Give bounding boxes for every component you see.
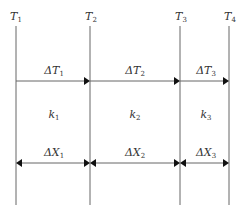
delta-t-label-2: ΔT2 (125, 65, 145, 78)
delta-x-label-1: ΔX1 (44, 147, 64, 160)
delta-t-label-1: ΔT1 (44, 65, 64, 78)
diagram-lines (0, 0, 249, 218)
arrowhead-icon (84, 77, 90, 85)
conductivity-label-1: k1 (48, 109, 59, 122)
arrowhead-icon (84, 159, 90, 167)
arrowhead-icon (174, 159, 180, 167)
arrowhead-icon (174, 77, 180, 85)
boundary-label-t3: T3 (175, 11, 187, 24)
arrowhead-icon (223, 159, 229, 167)
arrowhead-icon (223, 77, 229, 85)
boundary-label-t2: T2 (85, 11, 97, 24)
delta-x-label-2: ΔX2 (125, 147, 145, 160)
arrowhead-icon (90, 159, 96, 167)
boundary-label-t1: T1 (10, 11, 22, 24)
arrowhead-icon (16, 159, 22, 167)
layered-wall-diagram: T1 T2 T3 T4 ΔT1 ΔT2 ΔT3 k1 k2 k3 ΔX1 ΔX2… (0, 0, 249, 218)
delta-x-label-3: ΔX3 (196, 147, 216, 160)
arrowhead-icon (180, 159, 186, 167)
boundary-label-t4: T4 (224, 11, 236, 24)
conductivity-label-2: k2 (129, 109, 140, 122)
conductivity-label-3: k3 (200, 109, 211, 122)
delta-t-label-3: ΔT3 (196, 65, 216, 78)
